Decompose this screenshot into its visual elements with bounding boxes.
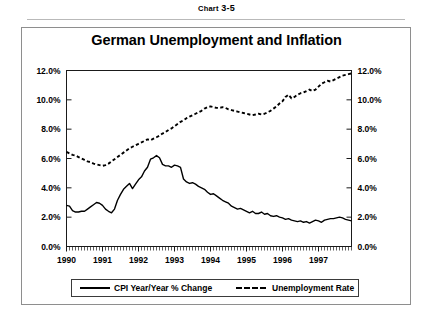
x-axis-tick-label: 1996 (263, 255, 303, 265)
y-axis-right-tick-label: 12.0% (358, 66, 398, 76)
y-axis-right-tick-label: 2.0% (358, 212, 398, 222)
legend-label-unemployment: Unemployment Rate (272, 283, 354, 293)
y-axis-right-tick-label: 8.0% (358, 124, 398, 134)
y-axis-left-tick-label: 4.0% (21, 183, 61, 193)
y-axis-left-tick-label: 2.0% (21, 212, 61, 222)
x-axis-tick-label: 1991 (83, 255, 123, 265)
x-axis-tick-label: 1994 (191, 255, 231, 265)
axis-ticks (67, 100, 352, 252)
legend-swatch-cpi (80, 287, 110, 289)
y-axis-right-tick-label: 4.0% (358, 183, 398, 193)
legend-swatch-unemployment (236, 287, 266, 289)
x-axis-tick-label: 1997 (299, 255, 339, 265)
x-axis-tick-label: 1992 (119, 255, 159, 265)
y-axis-left-tick-label: 0.0% (21, 242, 61, 252)
series-line-unemployment (67, 73, 352, 165)
y-axis-right-tick-label: 10.0% (358, 95, 398, 105)
chart-page: Chart 3-5 German Unemployment and Inflat… (0, 0, 433, 316)
y-axis-left-tick-label: 10.0% (21, 95, 61, 105)
x-axis-tick-label: 1995 (227, 255, 267, 265)
series-line-cpi (67, 156, 352, 223)
x-axis-tick-label: 1990 (47, 255, 87, 265)
y-axis-right-tick-label: 0.0% (358, 242, 398, 252)
y-axis-left-tick-label: 8.0% (21, 124, 61, 134)
x-axis-tick-label: 1993 (155, 255, 195, 265)
legend-label-cpi: CPI Year/Year % Change (114, 283, 212, 293)
data-series-layer (67, 73, 352, 223)
y-axis-left-tick-label: 6.0% (21, 154, 61, 164)
y-axis-left-tick-label: 12.0% (21, 66, 61, 76)
y-axis-right-tick-label: 6.0% (358, 154, 398, 164)
